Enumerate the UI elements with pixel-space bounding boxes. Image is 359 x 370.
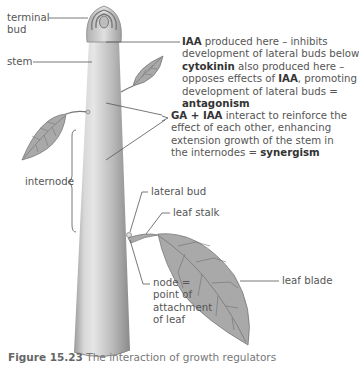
text: the internodes =	[171, 147, 260, 158]
label-node-line1: node =	[153, 277, 212, 289]
left-leaf	[22, 110, 90, 160]
caption-text: The interaction of growth regulators	[83, 351, 276, 363]
text: interact to reinforce the	[222, 110, 347, 121]
term-iaa: IAA	[278, 73, 298, 84]
label-node-line4: of leaf	[153, 314, 212, 326]
label-terminal-bud-line2: bud	[7, 24, 50, 36]
text: development of lateral buds =	[182, 86, 359, 98]
text: development of lateral buds below	[182, 48, 359, 60]
label-terminal-bud: terminal bud	[7, 12, 50, 37]
term-iaa: IAA	[182, 36, 202, 47]
text: opposes effects of	[182, 73, 278, 84]
term-ga-iaa: GA + IAA	[171, 110, 222, 121]
label-stem: stem	[7, 56, 33, 68]
annotation-ga-synergism: GA + IAA interact to reinforce the effec…	[171, 110, 347, 160]
label-node-line3: attachment	[153, 302, 212, 314]
term-antagonism: antagonism	[182, 98, 250, 109]
label-leaf-stalk: leaf stalk	[173, 207, 219, 219]
text: extension growth of the stem in	[171, 135, 347, 147]
text: produced here – inhibits	[202, 36, 328, 47]
text: also produced here –	[235, 61, 345, 72]
figure-caption: Figure 15.23 The interaction of growth r…	[8, 351, 276, 363]
text: effect of each other, enhancing	[171, 122, 347, 134]
label-internode: internode	[25, 176, 74, 188]
stem-shape	[74, 40, 130, 357]
text: , promoting	[298, 73, 357, 84]
figure-number: Figure 15.23	[8, 351, 83, 363]
label-lateral-bud: lateral bud	[151, 186, 206, 198]
label-leaf-blade: leaf blade	[282, 275, 332, 287]
term-cytokinin: cytokinin	[182, 61, 235, 72]
upper-right-leaf	[121, 56, 163, 92]
label-node: node = point of attachment of leaf	[153, 277, 212, 327]
label-terminal-bud-line1: terminal	[7, 12, 50, 24]
term-synergism: synergism	[260, 147, 319, 158]
label-node-line2: point of	[153, 289, 212, 301]
terminal-bud-shape	[87, 6, 122, 42]
annotation-iaa-antagonism: IAA produced here – inhibits development…	[182, 36, 359, 110]
